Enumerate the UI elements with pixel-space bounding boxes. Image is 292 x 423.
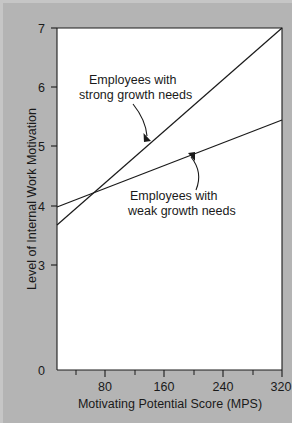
y-tick-label-0: 0 [38,364,45,378]
annotation-strong-growth-line2: strong growth needs [79,88,192,102]
annotation-strong-growth-line1: Employees with [89,73,177,87]
line-chart: 7 6 5 4 3 0 80 160 240 320 Motivating Po… [0,0,292,423]
x-axis-title: Motivating Potential Score (MPS) [78,397,262,411]
x-tick-label-320: 320 [271,380,292,394]
y-tick-label-3: 3 [38,259,45,273]
x-tick-label-80: 80 [98,380,112,394]
y-tick-label-5: 5 [38,140,45,154]
annotation-weak-growth-line2: weak growth needs [127,204,236,218]
annotation-weak-growth-line1: Employees with [130,189,218,203]
y-tick-label-6: 6 [38,81,45,95]
x-tick-label-160: 160 [154,380,175,394]
chart-figure: 7 6 5 4 3 0 80 160 240 320 Motivating Po… [0,0,292,423]
y-tick-label-7: 7 [38,22,45,36]
x-tick-label-240: 240 [213,380,234,394]
y-axis-title: Level of Internal Work Motivation [25,108,39,290]
y-tick-label-4: 4 [38,200,45,214]
